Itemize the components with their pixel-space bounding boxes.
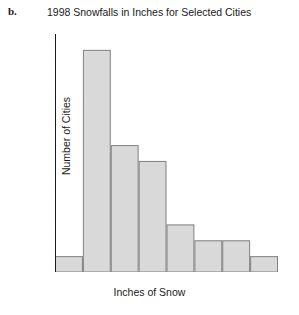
y-axis-label: Number of Cities (60, 81, 72, 191)
histogram-bar (83, 50, 110, 272)
histogram-figure: b. 1998 Snowfalls in Inches for Selected… (0, 0, 299, 315)
histogram-bar (111, 146, 138, 272)
bars-group (56, 50, 278, 272)
histogram-bar (195, 241, 222, 272)
histogram-bar (167, 225, 194, 272)
histogram-bar (139, 161, 166, 272)
histogram-bar (56, 257, 83, 272)
x-axis-label: Inches of Snow (0, 286, 299, 298)
histogram-bar (251, 257, 278, 272)
chart-title: 1998 Snowfalls in Inches for Selected Ci… (47, 6, 251, 18)
plot-area: 0123456789101112131415 01530456075901051… (55, 34, 278, 272)
histogram-bar (223, 241, 250, 272)
part-label: b. (8, 5, 17, 17)
plot-wrapper: 0123456789101112131415 01530456075901051… (55, 34, 278, 272)
